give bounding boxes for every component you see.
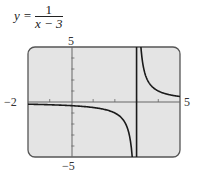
x-max-label: 5: [184, 95, 190, 110]
y-min-label: −5: [62, 159, 75, 174]
graph: [0, 0, 201, 179]
x-min-label: −2: [4, 95, 17, 110]
y-max-label: 5: [68, 34, 74, 49]
